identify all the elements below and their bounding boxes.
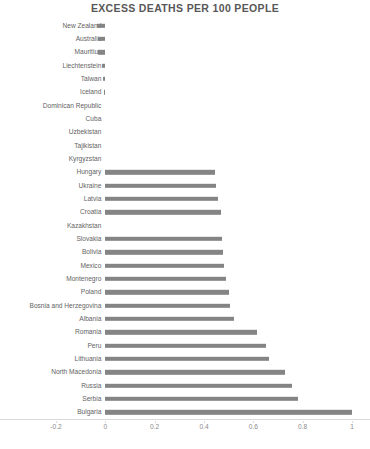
bar-row: Albania	[0, 312, 370, 325]
chart-title: EXCESS DEATHS PER 100 PEOPLE	[0, 2, 370, 14]
category-label: Kazakhstan	[67, 222, 101, 229]
bar	[104, 90, 105, 94]
category-label: Lithuania	[75, 356, 102, 363]
bar-row: Liechtenstein	[0, 59, 370, 72]
category-label: Tajikistan	[74, 142, 101, 149]
category-label: Mexico	[80, 262, 101, 269]
bar	[105, 250, 223, 254]
bar	[105, 410, 352, 414]
bar	[98, 37, 105, 41]
x-axis-tick-label: 0.8	[298, 423, 307, 430]
bar	[105, 330, 257, 334]
bar-row: Uzbekistan	[0, 126, 370, 139]
bar-row: Latvia	[0, 192, 370, 205]
category-label: Dominican Republic	[43, 102, 102, 109]
x-axis-tick-label: -0.2	[50, 423, 61, 430]
bar-row: Slovakia	[0, 232, 370, 245]
bar	[105, 357, 269, 361]
bar	[105, 343, 265, 347]
bar	[105, 317, 233, 321]
bar-row: Russia	[0, 379, 370, 392]
bar-row: Mexico	[0, 259, 370, 272]
bar-row: New Zealand	[0, 19, 370, 32]
bar-row: Bosnia and Herzegovina	[0, 299, 370, 312]
bar	[105, 370, 285, 374]
bar	[97, 23, 106, 27]
bar-row: Serbia	[0, 392, 370, 405]
bar	[103, 77, 106, 81]
category-label: Mauritius	[75, 49, 102, 56]
bar	[105, 290, 228, 294]
category-label: North Macedonia	[51, 369, 101, 376]
bar-row: Australia	[0, 32, 370, 45]
category-label: Hungary	[76, 169, 101, 176]
category-label: Poland	[81, 289, 102, 296]
category-label: Albania	[79, 316, 101, 323]
bar	[105, 277, 226, 281]
bar-row: Lithuania	[0, 352, 370, 365]
bar-row: Peru	[0, 339, 370, 352]
bar	[98, 50, 105, 54]
bar	[105, 263, 223, 267]
bar-row: Croatia	[0, 206, 370, 219]
x-axis-tick-label: 0.2	[150, 423, 159, 430]
category-label: Cuba	[86, 116, 102, 123]
category-label: Serbia	[82, 396, 101, 403]
x-axis-tick-label: 1	[350, 423, 354, 430]
category-label: Russia	[81, 382, 101, 389]
bar-row: Ukraine	[0, 179, 370, 192]
bar-row: Bulgaria	[0, 406, 370, 419]
bar-row: Taiwan	[0, 72, 370, 85]
category-label: Bosnia and Herzegovina	[29, 302, 101, 309]
x-axis-tick-labels: -0.200.20.40.60.81	[0, 421, 370, 437]
category-label: Slovakia	[76, 236, 101, 243]
category-label: Bolivia	[82, 249, 101, 256]
bar	[105, 197, 217, 201]
bar-row: Bolivia	[0, 246, 370, 259]
bar-row: Hungary	[0, 166, 370, 179]
plot-area: New ZealandAustraliaMauritiusLiechtenste…	[0, 19, 370, 419]
category-label: Croatia	[80, 209, 101, 216]
excess-deaths-bar-chart: EXCESS DEATHS PER 100 PEOPLE New Zealand…	[0, 0, 370, 449]
bar-row: Dominican Republic	[0, 99, 370, 112]
category-label: Montenegro	[66, 276, 101, 283]
bar-row: Kyrgyzstan	[0, 152, 370, 165]
bar	[105, 170, 215, 174]
bar-row: Cuba	[0, 112, 370, 125]
bar	[105, 383, 291, 387]
bar	[105, 237, 222, 241]
bar-row: North Macedonia	[0, 366, 370, 379]
bar-row: Poland	[0, 286, 370, 299]
bar-row: Tajikistan	[0, 139, 370, 152]
category-label: Peru	[87, 342, 101, 349]
bar-row: Mauritius	[0, 46, 370, 59]
category-label: Liechtenstein	[62, 62, 101, 69]
category-label: Kyrgyzstan	[69, 156, 102, 163]
category-label: Ukraine	[79, 182, 102, 189]
bar-row: Kazakhstan	[0, 219, 370, 232]
category-label: Uzbekistan	[69, 129, 102, 136]
x-axis-tick-label: 0.4	[199, 423, 208, 430]
x-axis-tick-label: 0.6	[249, 423, 258, 430]
category-label: New Zealand	[62, 22, 101, 29]
bar-row: Romania	[0, 326, 370, 339]
category-label: Iceland	[80, 89, 101, 96]
bar	[105, 183, 216, 187]
x-axis-line	[0, 419, 370, 420]
bar	[105, 303, 230, 307]
bar	[102, 63, 105, 67]
category-label: Bulgaria	[77, 409, 101, 416]
category-label: Latvia	[84, 196, 102, 203]
bar	[105, 397, 297, 401]
bar	[105, 210, 221, 214]
bar-row: Montenegro	[0, 272, 370, 285]
category-label: Romania	[75, 329, 101, 336]
bar-row: Iceland	[0, 86, 370, 99]
x-axis-tick-label: 0	[103, 423, 107, 430]
category-label: Taiwan	[81, 76, 102, 83]
